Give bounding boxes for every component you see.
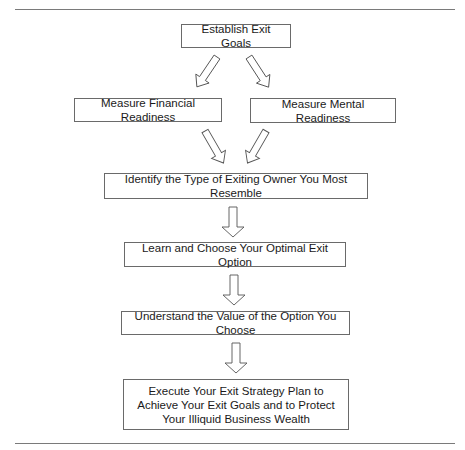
node-label: Measure Mental Readiness (257, 97, 389, 125)
node-label: Establish Exit Goals (188, 22, 284, 50)
node-execute-exit-strategy: Execute Your Exit Strategy Plan to Achie… (123, 379, 349, 430)
node-label: Measure Financial Readiness (81, 96, 215, 124)
node-understand-option-value: Understand the Value of the Option You C… (121, 311, 350, 335)
arrow-learn-to-value-icon (223, 275, 245, 305)
node-establish-exit-goals: Establish Exit Goals (181, 24, 291, 48)
node-measure-mental-readiness: Measure Mental Readiness (250, 98, 396, 123)
bottom-rule (15, 443, 455, 444)
node-label: Learn and Choose Your Optimal Exit Optio… (131, 241, 339, 269)
node-label: Identify the Type of Exiting Owner You M… (111, 172, 361, 200)
node-identify-owner-type: Identify the Type of Exiting Owner You M… (104, 173, 368, 199)
arrow-identify-to-learn-icon (222, 207, 244, 237)
arrow-financial-to-identify-icon (198, 127, 230, 167)
arrow-goals-to-mental-icon (242, 53, 275, 92)
node-label: Understand the Value of the Option You C… (128, 309, 343, 337)
arrow-value-to-execute-icon (225, 343, 247, 373)
arrow-mental-to-identify-icon (241, 127, 273, 167)
node-label: Execute Your Exit Strategy Plan to Achie… (132, 384, 340, 426)
arrow-goals-to-financial-icon (190, 53, 223, 92)
node-learn-choose-exit-option: Learn and Choose Your Optimal Exit Optio… (124, 242, 346, 267)
node-measure-financial-readiness: Measure Financial Readiness (74, 98, 222, 122)
